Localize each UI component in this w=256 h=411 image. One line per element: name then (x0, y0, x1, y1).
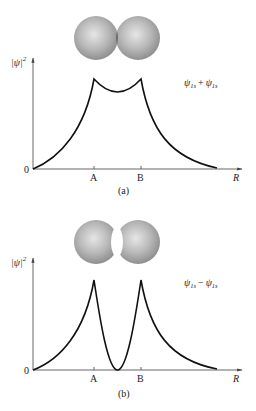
panel-b: |ψ|2 0 A B R (b) ψ1s−ψ1s (11, 220, 242, 400)
figure-canvas: |ψ|2 0 A B R (a) ψ1s+ψ1s |ψ|2 0 A B R (b… (0, 0, 256, 411)
equation-antibonding: ψ1s−ψ1s (184, 277, 218, 289)
bonding-spheres (74, 16, 160, 60)
y-axis-label: |ψ|2 (11, 55, 27, 68)
caption-b: (b) (118, 388, 130, 400)
x-axis-label: R (232, 373, 239, 384)
nodal-gap (111, 227, 123, 257)
atom-a-sphere (74, 16, 118, 60)
tick-label-b: B (137, 373, 144, 384)
tick-label-a: A (90, 172, 98, 183)
origin-label: 0 (24, 365, 29, 376)
antibonding-spheres (74, 220, 160, 264)
orbital-density-figure: |ψ|2 0 A B R (a) ψ1s+ψ1s |ψ|2 0 A B R (b… (0, 0, 256, 411)
caption-a: (a) (118, 185, 129, 197)
y-axis-label: |ψ|2 (11, 255, 27, 268)
equation-bonding: ψ1s+ψ1s (184, 77, 218, 89)
tick-label-b: B (137, 172, 144, 183)
atom-b-sphere (116, 16, 160, 60)
density-curve-antibonding (33, 280, 217, 370)
x-axis-label: R (232, 172, 239, 183)
origin-label: 0 (24, 164, 29, 175)
tick-label-a: A (90, 373, 98, 384)
panel-a: |ψ|2 0 A B R (a) ψ1s+ψ1s (11, 16, 242, 197)
density-curve-bonding (33, 79, 217, 169)
